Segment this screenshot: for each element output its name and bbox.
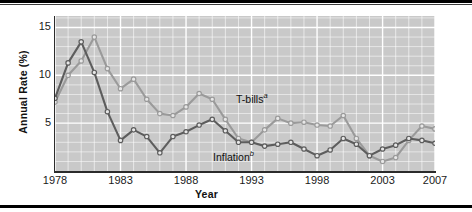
data-point [66, 61, 70, 65]
data-point [341, 113, 345, 117]
data-point [367, 153, 371, 157]
series-annotation-tbills-label: T-bills [236, 93, 263, 105]
data-point [315, 153, 319, 157]
data-point [210, 97, 214, 101]
data-point [328, 148, 332, 152]
data-point [315, 123, 319, 127]
x-tick-label: 1983 [108, 174, 132, 186]
data-point [354, 136, 358, 140]
data-point [158, 111, 162, 115]
data-point [249, 140, 253, 144]
data-point [131, 128, 135, 132]
data-point [66, 73, 70, 77]
data-point [171, 134, 175, 138]
y-tick-label: 15 [29, 21, 51, 32]
data-point [92, 35, 96, 39]
series-annotation-inflation-superscript: b [250, 149, 254, 158]
data-point [171, 113, 175, 117]
data-point [118, 87, 122, 91]
data-point [420, 124, 424, 128]
data-point [79, 59, 83, 63]
data-point [223, 117, 227, 121]
data-point [158, 151, 162, 155]
x-tick-label: 1993 [239, 174, 263, 186]
series-annotation-inflation: Inflationb [213, 149, 254, 163]
data-point [92, 70, 96, 74]
data-point [302, 147, 306, 151]
figure-bottom-rule [0, 205, 472, 208]
x-tick-label: 2003 [370, 174, 394, 186]
chart-figure: Annual Rate (%) Year 51015 1978198319881… [0, 0, 472, 212]
plot-area: T-billsa Inflationb [55, 16, 435, 171]
data-point [407, 136, 411, 140]
data-point [289, 121, 293, 125]
data-point [393, 155, 397, 159]
data-point [276, 142, 280, 146]
data-point [197, 123, 201, 127]
data-point [197, 91, 201, 95]
data-point [393, 143, 397, 147]
data-point [105, 109, 109, 113]
data-point [328, 124, 332, 128]
figure-top-rule-thin [0, 4, 472, 5]
data-point [79, 40, 83, 44]
x-axis-tick-labels: 1978198319881993199820032007 [0, 174, 472, 190]
data-point [55, 96, 57, 100]
data-point [131, 77, 135, 81]
data-point [184, 105, 188, 109]
data-point [380, 147, 384, 151]
x-tick-label: 1978 [43, 174, 67, 186]
x-tick-label: 1988 [174, 174, 198, 186]
data-point [289, 140, 293, 144]
data-point [433, 141, 435, 145]
data-point [145, 97, 149, 101]
data-point [105, 66, 109, 70]
data-point [236, 140, 240, 144]
data-point [262, 128, 266, 132]
data-point [223, 129, 227, 133]
data-point [302, 120, 306, 124]
data-point [184, 130, 188, 134]
series-annotation-tbills-superscript: a [263, 91, 267, 100]
data-point [341, 136, 345, 140]
data-point [354, 142, 358, 146]
data-point [210, 117, 214, 121]
data-point [262, 144, 266, 148]
data-point [145, 134, 149, 138]
data-point [118, 138, 122, 142]
series-annotation-inflation-label: Inflation [213, 151, 250, 163]
figure-top-rule [0, 0, 472, 3]
data-point [433, 127, 435, 131]
y-tick-label: 10 [29, 69, 51, 80]
data-point [420, 138, 424, 142]
series-annotation-tbills: T-billsa [236, 91, 268, 105]
data-point [276, 116, 280, 120]
y-tick-label: 5 [29, 117, 51, 128]
x-tick-label: 1998 [305, 174, 329, 186]
data-point [380, 159, 384, 163]
x-axis-spine [54, 171, 436, 173]
x-tick-label: 2007 [423, 174, 447, 186]
